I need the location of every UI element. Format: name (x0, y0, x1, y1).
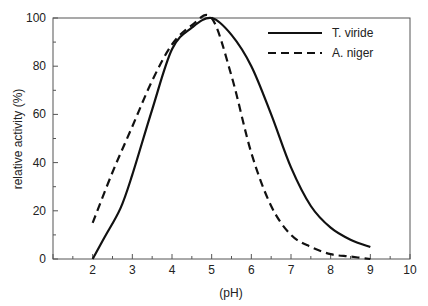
series-line-a-niger (93, 15, 371, 259)
x-tick-label: 9 (367, 263, 374, 277)
chart: 2345678910020406080100 T. virideA. niger… (0, 0, 428, 306)
legend-label: T. viride (332, 26, 374, 40)
y-tick-label: 100 (26, 11, 46, 25)
x-tick-label: 5 (208, 263, 215, 277)
x-tick-label: 3 (129, 263, 136, 277)
y-tick-label: 20 (33, 204, 47, 218)
legend-label: A. niger (332, 46, 373, 60)
x-tick-label: 2 (89, 263, 96, 277)
y-axis-label: relative activity (%) (11, 89, 25, 190)
series-line-t-viride (93, 18, 371, 259)
x-tick-label: 10 (403, 263, 417, 277)
x-tick-label: 7 (288, 263, 295, 277)
y-tick-label: 0 (39, 252, 46, 266)
legend: T. virideA. niger (268, 26, 374, 60)
y-tick-label: 80 (33, 59, 47, 73)
x-tick-label: 8 (327, 263, 334, 277)
data-lines (93, 15, 371, 259)
x-tick-label: 6 (248, 263, 255, 277)
y-tick-label: 60 (33, 107, 47, 121)
x-tick-label: 4 (169, 263, 176, 277)
x-axis-label: (pH) (219, 286, 242, 300)
y-tick-label: 40 (33, 156, 47, 170)
